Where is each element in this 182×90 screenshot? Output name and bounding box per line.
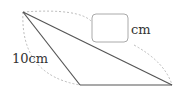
left-edge xyxy=(23,12,80,85)
answer-box[interactable] xyxy=(92,14,128,42)
answer-unit-label: cm xyxy=(131,22,151,37)
left-side-length-label: 10cm xyxy=(12,51,48,66)
triangle-diagram: cm 10cm xyxy=(0,0,182,90)
long-side-dashed-arc-lower xyxy=(134,45,172,85)
